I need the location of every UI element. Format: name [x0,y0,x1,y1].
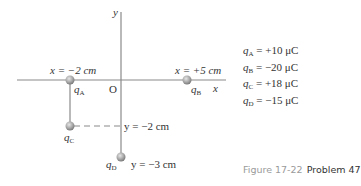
figure-number: Figure 17-22 [243,164,303,175]
problem-number: Problem 47 [307,164,361,175]
qd-position-label: y = −3 cm [131,158,176,170]
charge-value-row: qA = +10 μC [243,44,298,61]
qc-label: qC [64,131,74,147]
qa-label: qA [74,83,85,99]
origin-label: O [109,83,117,95]
charge-value-row: qD = −15 μC [243,94,298,111]
figure-caption: Figure 17-22Problem 47 [243,164,361,175]
charge-value-row: qB = −20 μC [243,61,298,78]
charge-values-list: qA = +10 μC qB = −20 μC qC = +18 μC qD =… [243,44,298,110]
qa-position-label: x = −2 cm [50,64,96,76]
qb-label: qB [191,83,201,99]
qc-position-label: y = −2 cm [124,120,169,132]
charge-qd-icon [117,153,126,162]
x-axis-label: x [213,82,218,94]
qd-label: qD [106,158,117,174]
y-axis-label: y [113,6,118,18]
qb-position-label: x = +5 cm [175,64,221,76]
charge-qc-icon [66,122,75,131]
charge-value-row: qC = +18 μC [243,77,298,94]
